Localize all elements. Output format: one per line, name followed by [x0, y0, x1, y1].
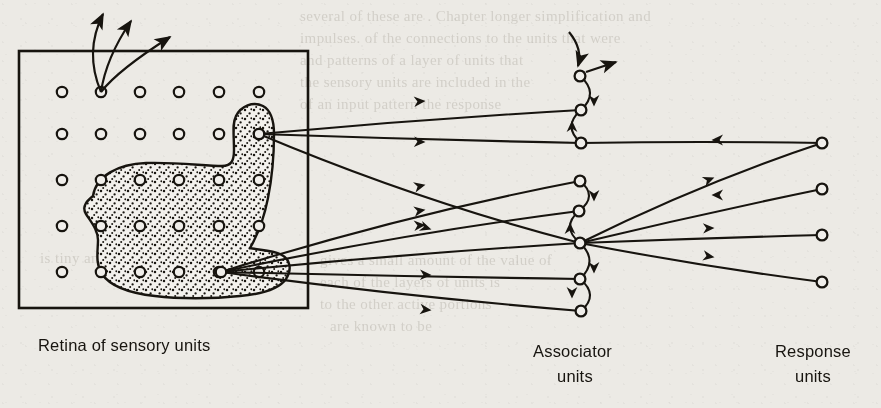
figure-label-associator: Associator: [533, 342, 612, 361]
associator-unit-node[interactable]: [575, 238, 586, 249]
sensory-unit-node[interactable]: [96, 129, 106, 139]
sensory-unit-node[interactable]: [254, 221, 264, 231]
figure-label-retina: Retina of sensory units: [38, 336, 210, 355]
sensory-unit-node[interactable]: [57, 129, 67, 139]
link-arrowhead: [414, 96, 426, 107]
associator-unit-node[interactable]: [575, 176, 586, 187]
sensory-unit-node[interactable]: [214, 129, 224, 139]
sensory-unit-node[interactable]: [174, 221, 184, 231]
link-arrowhead: [712, 135, 724, 146]
sensory-unit-node[interactable]: [174, 175, 184, 185]
sensory-unit-node[interactable]: [174, 129, 184, 139]
link-arrowhead: [589, 95, 600, 107]
sensory-unit-node[interactable]: [96, 221, 106, 231]
response-to-associator-link: [580, 189, 822, 243]
response-unit-node[interactable]: [817, 184, 828, 195]
sensory-unit-node[interactable]: [135, 87, 145, 97]
associator-unit-node[interactable]: [575, 274, 586, 285]
sensory-unit-node[interactable]: [57, 175, 67, 185]
sensory-unit-node[interactable]: [174, 87, 184, 97]
external-output-arrow: [586, 62, 616, 72]
sensory-unit-node[interactable]: [135, 267, 145, 277]
retina-output-arrow: [101, 21, 131, 92]
response-unit-node[interactable]: [817, 230, 828, 241]
figure-canvas: several of these are . Chapter longer si…: [0, 0, 881, 408]
figure-label-response: Response: [775, 342, 851, 361]
sensory-unit-node[interactable]: [214, 175, 224, 185]
link-arrowhead: [712, 190, 724, 201]
sensory-unit-node[interactable]: [57, 221, 67, 231]
sensory-unit-node[interactable]: [254, 175, 264, 185]
sensory-unit-node[interactable]: [135, 221, 145, 231]
link-arrowhead: [420, 304, 433, 316]
sensory-unit-node[interactable]: [214, 87, 224, 97]
associator-unit-node[interactable]: [574, 206, 585, 217]
figure-label-response2: units: [795, 367, 831, 386]
link-arrowhead: [589, 262, 600, 274]
sensory-unit-node[interactable]: [216, 267, 226, 277]
response-unit-node[interactable]: [817, 138, 828, 149]
response-unit-node[interactable]: [817, 277, 828, 288]
retina-output-arrow: [93, 14, 103, 92]
sensory-unit-node[interactable]: [214, 221, 224, 231]
link-arrowhead: [567, 287, 578, 299]
associator-unit-node[interactable]: [576, 306, 587, 317]
sensory-unit-node[interactable]: [254, 87, 264, 97]
link-arrowhead: [413, 180, 427, 193]
external-input-arrow: [569, 32, 579, 66]
sensory-unit-node[interactable]: [174, 267, 184, 277]
link-arrowhead: [702, 250, 715, 262]
sensory-unit-node[interactable]: [57, 267, 67, 277]
link-arrowhead: [565, 223, 576, 235]
figure-label-associator2: units: [557, 367, 593, 386]
associator-unit-node[interactable]: [575, 71, 586, 82]
sensory-unit-node[interactable]: [57, 87, 67, 97]
retina-output-arrow: [101, 37, 170, 92]
link-arrowhead: [589, 190, 600, 202]
response-to-associator-link: [581, 142, 822, 143]
associator-to-response-link: [580, 143, 822, 243]
associator-unit-node[interactable]: [576, 105, 587, 116]
sensory-unit-node[interactable]: [135, 175, 145, 185]
sensory-unit-node[interactable]: [96, 175, 106, 185]
associator-to-response-link: [580, 235, 822, 243]
sensory-unit-node[interactable]: [96, 267, 106, 277]
associator-unit-node[interactable]: [576, 138, 587, 149]
link-arrowhead: [703, 223, 715, 234]
link-arrowhead: [420, 270, 432, 281]
sensory-unit-node[interactable]: [254, 129, 264, 139]
associator-to-response-link: [580, 243, 822, 282]
sensory-unit-node[interactable]: [135, 129, 145, 139]
